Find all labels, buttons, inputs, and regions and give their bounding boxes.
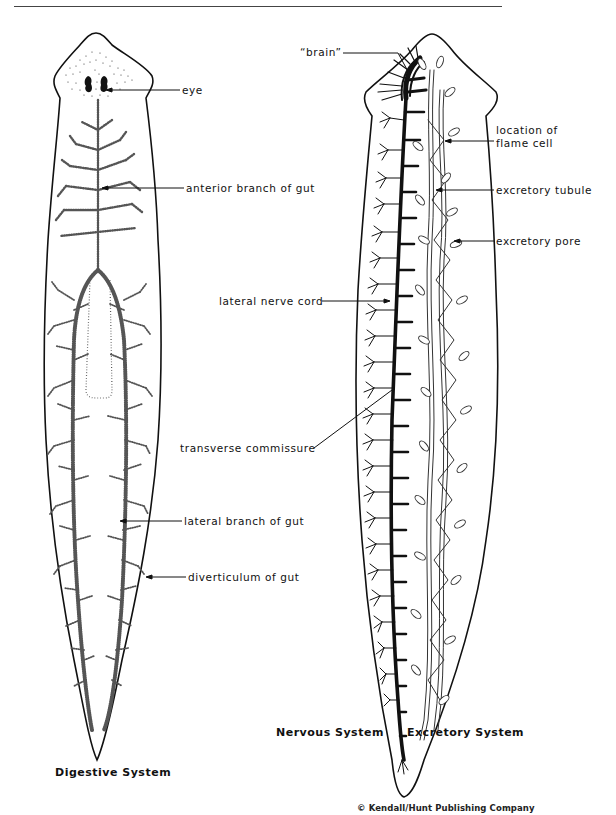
label-anterior-branch-of-gut: anterior branch of gut bbox=[186, 182, 315, 194]
eyespots bbox=[85, 76, 108, 92]
label-flame-cell-line2: flame cell bbox=[496, 137, 553, 149]
caption-nervous-system: Nervous System bbox=[276, 726, 384, 739]
label-diverticulum-of-gut: diverticulum of gut bbox=[188, 571, 299, 583]
transverse-commissures bbox=[392, 112, 424, 736]
digestive-body-outline bbox=[44, 33, 161, 760]
caption-excretory-system: Excretory System bbox=[407, 726, 524, 739]
label-flame-cell-line1: location of bbox=[496, 124, 558, 136]
label-transverse-commissure: transverse commissure bbox=[180, 442, 316, 454]
label-brain: “brain” bbox=[300, 46, 342, 58]
copyright-credit: © Kendall/Hunt Publishing Company bbox=[357, 803, 535, 813]
label-lateral-branch-of-gut: lateral branch of gut bbox=[184, 515, 304, 527]
label-lateral-nerve-cord: lateral nerve cord bbox=[219, 295, 323, 307]
gut-anterior-branch bbox=[56, 100, 142, 270]
pharynx-outline bbox=[86, 280, 112, 398]
gut-lateral-branches bbox=[73, 270, 126, 730]
flame-cell-bulbs bbox=[409, 55, 472, 706]
gut-diverticula bbox=[48, 282, 152, 686]
brain-ganglia bbox=[378, 46, 426, 100]
caption-digestive-system: Digestive System bbox=[55, 766, 171, 779]
label-eye: eye bbox=[182, 84, 203, 96]
label-excretory-pore: excretory pore bbox=[496, 235, 581, 247]
planarian-diagram bbox=[0, 0, 616, 815]
label-excretory-tubule: excretory tubule bbox=[496, 184, 592, 196]
